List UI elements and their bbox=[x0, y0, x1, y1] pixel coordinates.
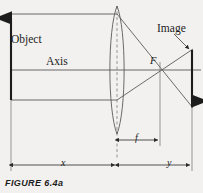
image-label: Image bbox=[157, 22, 186, 34]
figure-caption: FIGURE 6.4a bbox=[5, 178, 63, 188]
image-leader-line bbox=[174, 34, 189, 49]
image-distance-label: y bbox=[167, 157, 171, 168]
object-label: Object bbox=[11, 33, 42, 45]
axis-label: Axis bbox=[46, 55, 68, 67]
focal-length-label: f bbox=[135, 132, 138, 143]
focal-point-label: F bbox=[150, 55, 156, 66]
figure-container: Object Axis Image F f y x FIGURE 6.4a bbox=[0, 0, 203, 193]
object-distance-label: x bbox=[61, 157, 65, 168]
